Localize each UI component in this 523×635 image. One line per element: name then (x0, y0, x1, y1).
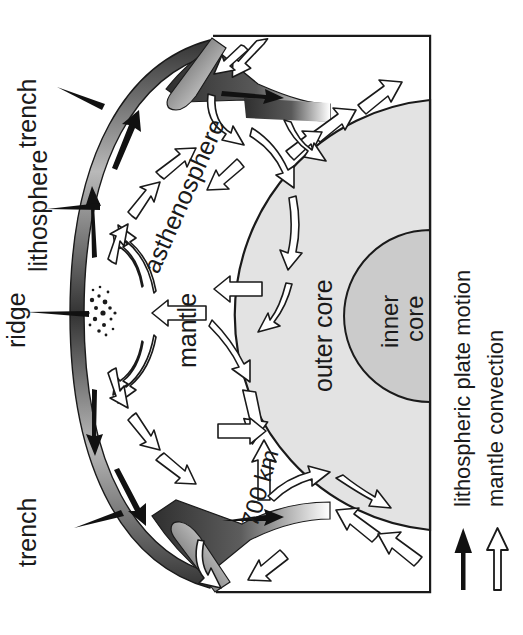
label-lithosphere: lithosphere (24, 150, 52, 272)
diagram-figure: trench lithosphere ridge trench asthenos… (0, 0, 523, 635)
legend: lithospheric plate motion mantle convect… (450, 270, 508, 590)
label-inner-core-line2: core (401, 295, 428, 342)
label-trench-bottom: trench (13, 498, 41, 567)
legend-label-1: lithospheric plate motion (450, 270, 475, 507)
label-outer-core: outer core (309, 279, 337, 392)
ridge-pointer (26, 311, 89, 317)
legend-label-2: mantle convection (483, 330, 508, 507)
trench-top-pointer (57, 87, 105, 110)
label-ridge: ridge (2, 292, 30, 348)
earth-cross-section-svg: trench lithosphere ridge trench asthenos… (0, 0, 523, 635)
label-trench-top: trench (13, 79, 41, 148)
label-inner-core-line1: inner (376, 295, 403, 348)
legend-item-lithospheric-plate-motion: lithospheric plate motion (450, 270, 475, 590)
label-mantle: mantle (173, 293, 201, 368)
legend-item-mantle-convection: mantle convection (483, 330, 508, 590)
solid-arrow-icon (455, 528, 473, 590)
hollow-arrow-icon (487, 528, 508, 590)
